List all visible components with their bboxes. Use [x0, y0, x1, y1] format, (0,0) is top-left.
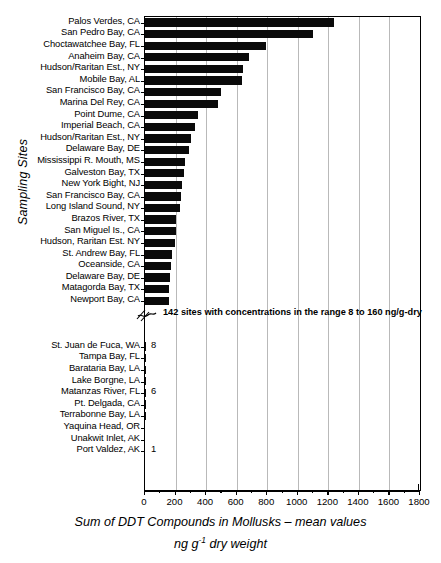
bar	[145, 342, 146, 350]
bar	[145, 273, 170, 281]
bar-row: New York Bight, NJ	[145, 179, 420, 191]
bar-row: St. Andrew Bay, FL	[145, 249, 420, 261]
x-tick-label: 1200	[317, 496, 338, 507]
bar-row: Galveston Bay, TX	[145, 168, 420, 180]
bar	[145, 250, 172, 258]
x-tick-800	[266, 490, 267, 495]
bar-value-label: 1	[151, 443, 156, 455]
category-label: Barataria Bay, LA	[69, 362, 140, 374]
bar-row: Oceanside, CA	[145, 260, 420, 272]
x-tick-1200	[327, 490, 328, 495]
bar	[145, 377, 146, 385]
category-label: Matagorda Bay, TX	[62, 281, 140, 293]
bar	[145, 53, 249, 61]
x-tick-label: 1800	[408, 496, 429, 507]
category-label: San Francisco Bay, CA	[46, 84, 140, 96]
bar	[145, 262, 171, 270]
category-label: San Miguel Is., CA	[64, 224, 140, 236]
bar-row: Newport Bay, CA	[145, 295, 420, 307]
axis-break-icon	[136, 307, 158, 323]
x-tick-label: 1400	[347, 496, 368, 507]
x-tick-label: 200	[167, 496, 183, 507]
bar	[145, 354, 146, 362]
x-tick-600	[236, 490, 237, 495]
x-tick-900	[282, 490, 283, 493]
category-label: Lake Borgne, LA	[72, 374, 140, 386]
x-axis-unit-exponent: -1	[199, 535, 206, 545]
category-label: Hudson, Raritan Est. NY	[40, 235, 140, 247]
category-label: New York Bight, NJ	[62, 177, 140, 189]
bar	[145, 400, 146, 408]
bar-row: St. Juan de Fuca, WA8	[145, 341, 420, 353]
bar-row: Marina Del Rey, CA	[145, 98, 420, 110]
category-label: Unakwit Inlet, AK	[71, 432, 140, 444]
bar-row: Pt. Delgada, CA	[145, 399, 420, 411]
x-tick-400	[205, 490, 206, 495]
category-label: Terrabonne Bay, LA	[60, 408, 140, 420]
category-label: Choctawatchee Bay, FL	[43, 38, 140, 50]
bar-row: Port Valdez, AK1	[145, 445, 420, 457]
bar	[145, 169, 184, 177]
x-tick-1800	[419, 490, 420, 495]
category-label: Brazos River, TX	[71, 212, 140, 224]
bar	[145, 76, 242, 84]
category-label: Port Valdez, AK	[77, 443, 140, 455]
x-axis-unit-post: dry weight	[206, 537, 267, 551]
y-axis-title: Sampling Sites	[16, 117, 30, 247]
bar	[145, 158, 185, 166]
bar	[145, 215, 176, 223]
category-label: Hudson/Raritan Est., NY	[40, 61, 140, 73]
bar	[145, 123, 195, 131]
x-tick-1100	[312, 490, 313, 493]
bar-row: Unakwit Inlet, AK	[145, 434, 420, 446]
category-label: Point Dume, CA	[74, 108, 140, 120]
x-tick-1400	[358, 490, 359, 495]
bar	[145, 42, 266, 50]
category-label: San Francisco Bay, CA	[46, 189, 140, 201]
bar-row: Matagorda Bay, TX	[145, 284, 420, 296]
bar-row: Mississippi R. Mouth, MS	[145, 156, 420, 168]
bar-row: Mobile Bay, AL	[145, 75, 420, 87]
category-label: Palos Verdes, CA	[68, 15, 140, 27]
category-label: Mississippi R. Mouth, MS	[37, 154, 140, 166]
bar-row: Hudson, Raritan Est. NY	[145, 237, 420, 249]
bar	[145, 285, 169, 293]
bar-row: Point Dume, CA	[145, 110, 420, 122]
x-tick-500	[220, 490, 221, 493]
bar-row: Imperial Beach, CA	[145, 121, 420, 133]
category-label: Long Island Sound, NY	[46, 200, 140, 212]
x-tick-label: 1000	[286, 496, 307, 507]
x-tick-300	[190, 490, 191, 493]
bar-row: Long Island Sound, NY	[145, 203, 420, 215]
x-tick-100	[159, 490, 160, 493]
bar-row: Tampa Bay, FL	[145, 353, 420, 365]
category-label: Oceanside, CA	[78, 258, 140, 270]
bar-row: Lake Borgne, LA	[145, 376, 420, 388]
bar-row: Matanzas River, FL6	[145, 387, 420, 399]
category-label: Pt. Delgada, CA	[74, 397, 140, 409]
x-axis-title-line2: ng g-1 dry weight	[0, 531, 441, 553]
category-tick	[141, 451, 145, 452]
chart-figure: Sampling Sites Palos Verdes, CASan Pedro…	[0, 0, 441, 563]
category-label: Newport Bay, CA	[70, 293, 140, 305]
x-tick-label: 1600	[378, 496, 399, 507]
bar-row: Yaquina Head, OR	[145, 422, 420, 434]
bar-row: San Francisco Bay, CA	[145, 87, 420, 99]
plot-area: Palos Verdes, CASan Pedro Bay, CAChoctaw…	[144, 16, 421, 491]
axis-break-note: 142 sites with concentrations in the ran…	[163, 307, 422, 317]
bar-row: San Pedro Bay, CA	[145, 29, 420, 41]
bar-row: Choctawatchee Bay, FL	[145, 40, 420, 52]
bar-row: Anaheim Bay, CA	[145, 52, 420, 64]
x-tick-label: 800	[258, 496, 274, 507]
bar	[145, 181, 182, 189]
category-label: San Pedro Bay, CA	[61, 26, 140, 38]
category-label: Tampa Bay, FL	[79, 350, 140, 362]
x-tick-700	[251, 490, 252, 493]
bar	[145, 30, 313, 38]
category-label: Matanzas River, FL	[61, 385, 140, 397]
x-axis: 020040060080010001200140016001800	[144, 490, 419, 492]
category-label: Delaware Bay, DE	[66, 142, 140, 154]
bar-row: Barataria Bay, LA	[145, 364, 420, 376]
x-tick-label: 400	[197, 496, 213, 507]
bar-row: Delaware Bay, DE	[145, 145, 420, 157]
